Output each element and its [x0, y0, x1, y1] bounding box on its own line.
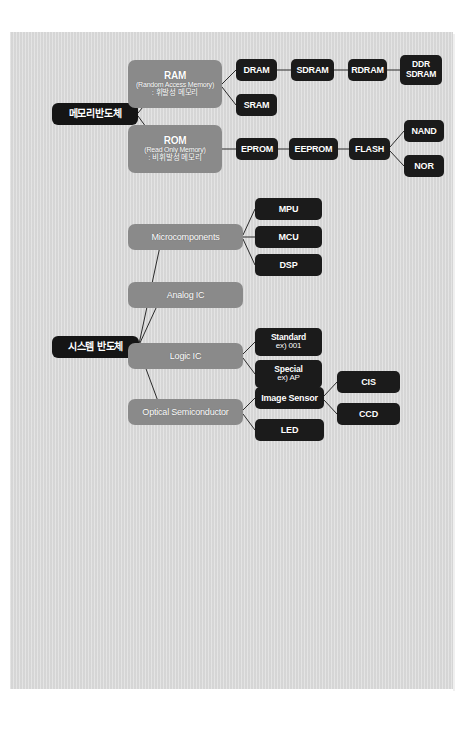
node-sdram-label: SDRAM [297, 65, 329, 75]
node-mpu-label: MPU [279, 204, 298, 214]
node-cis[interactable]: CIS [337, 371, 400, 393]
node-led[interactable]: LED [255, 419, 324, 441]
root-memory-semiconductor[interactable]: 메모리반도체 [52, 103, 138, 125]
node-image-sensor-label: Image Sensor [261, 393, 318, 403]
node-eeprom[interactable]: EEPROM [289, 138, 338, 160]
node-microcomponents-label: Microcomponents [151, 232, 219, 242]
node-mcu-label: MCU [279, 232, 299, 242]
node-standard-line2: ex) 001 [276, 342, 301, 351]
node-flash-label: FLASH [355, 144, 384, 154]
node-cis-label: CIS [361, 377, 375, 387]
node-ram-note: : 휘발성 메모리 [152, 89, 198, 97]
node-ram[interactable]: RAM (Random Access Memory) : 휘발성 메모리 [128, 60, 222, 108]
node-eprom[interactable]: EPROM [236, 138, 278, 160]
node-dsp[interactable]: DSP [255, 254, 322, 276]
node-nand[interactable]: NAND [404, 120, 444, 142]
node-sram[interactable]: SRAM [236, 94, 277, 116]
root-system-semiconductor[interactable]: 시스템 반도체 [52, 336, 139, 358]
node-ddr-sdram[interactable]: DDR SDRAM [400, 55, 442, 85]
node-eeprom-label: EEPROM [295, 144, 333, 154]
node-nor[interactable]: NOR [404, 155, 444, 177]
node-ddr-sdram-line2: SDRAM [406, 70, 436, 80]
node-eprom-label: EPROM [241, 144, 273, 154]
node-analog-ic[interactable]: Analog IC [128, 282, 243, 308]
node-ccd[interactable]: CCD [337, 403, 400, 425]
node-optical-semiconductor[interactable]: Optical Semiconductor [128, 399, 243, 425]
node-logic-ic-label: Logic IC [170, 351, 201, 361]
node-flash[interactable]: FLASH [349, 138, 390, 160]
node-optical-semiconductor-label: Optical Semiconductor [142, 407, 228, 417]
node-microcomponents[interactable]: Microcomponents [128, 224, 243, 250]
node-special-line2: ex) AP [277, 374, 299, 383]
node-mcu[interactable]: MCU [255, 226, 322, 248]
node-rdram[interactable]: RDRAM [348, 59, 387, 81]
node-rom-title: ROM [164, 135, 187, 146]
node-ccd-label: CCD [359, 409, 378, 419]
diagram-canvas: 메모리반도체 RAM (Random Access Memory) : 휘발성 … [10, 32, 453, 689]
page-root: 메모리반도체 RAM (Random Access Memory) : 휘발성 … [0, 0, 463, 731]
node-rom[interactable]: ROM (Read Only Memory) : 비휘발성 메모리 [128, 125, 222, 173]
node-dsp-label: DSP [280, 260, 298, 270]
node-logic-ic[interactable]: Logic IC [128, 343, 243, 369]
node-sdram[interactable]: SDRAM [291, 59, 334, 81]
node-sram-label: SRAM [244, 100, 270, 110]
scanned-sheet: 메모리반도체 RAM (Random Access Memory) : 휘발성 … [10, 32, 453, 689]
node-mpu[interactable]: MPU [255, 198, 322, 220]
node-dram-label: DRAM [243, 65, 269, 75]
node-led-label: LED [281, 425, 298, 435]
node-rom-note: : 비휘발성 메모리 [148, 154, 201, 162]
node-nand-label: NAND [411, 126, 436, 136]
node-special[interactable]: Special ex) AP [255, 360, 322, 388]
node-standard[interactable]: Standard ex) 001 [255, 328, 322, 356]
node-ram-title: RAM [164, 70, 186, 81]
node-nor-label: NOR [414, 161, 433, 171]
node-image-sensor[interactable]: Image Sensor [255, 387, 324, 409]
node-dram[interactable]: DRAM [236, 59, 277, 81]
root-system-label: 시스템 반도체 [68, 341, 123, 352]
root-memory-label: 메모리반도체 [69, 108, 122, 119]
node-analog-ic-label: Analog IC [167, 290, 205, 300]
node-rdram-label: RDRAM [351, 65, 384, 75]
